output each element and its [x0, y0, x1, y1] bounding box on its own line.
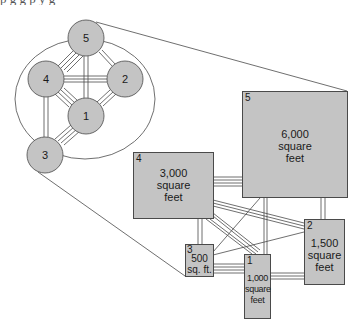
space-2-area-unit: square — [305, 249, 344, 261]
space-5-area: 6,000 square feet — [243, 128, 347, 164]
space-5-area-unit: square — [243, 140, 347, 152]
space-2-area-value: 1,500 — [305, 237, 344, 249]
space-1-block: 1 1,000 square feet — [244, 254, 271, 319]
bubble-2-label: 2 — [122, 73, 128, 85]
space-2-area: 1,500 square feet — [305, 237, 344, 273]
bubble-3-label: 3 — [42, 149, 48, 161]
space-3-area-unit: sq. ft. — [186, 264, 213, 275]
space-4-area-unit2: feet — [134, 191, 213, 203]
space-5-block: 5 6,000 square feet — [242, 91, 348, 198]
space-4-area-value: 3,000 — [134, 167, 213, 179]
space-4-area-unit: square — [134, 179, 213, 191]
space-4-area: 3,000 square feet — [134, 167, 213, 203]
space-1-area: 1,000 square feet — [245, 273, 270, 306]
space-5-area-value: 6,000 — [243, 128, 347, 140]
bubble-1-label: 1 — [83, 110, 89, 122]
space-1-area-unit: square — [245, 284, 270, 295]
space-4-block: 4 3,000 square feet — [133, 152, 214, 219]
space-1-area-unit2: feet — [245, 295, 270, 306]
space-3-area: 500 sq. ft. — [186, 253, 213, 275]
space-3-block: 3 500 sq. ft. — [185, 244, 214, 277]
bubble-4-label: 4 — [43, 73, 49, 85]
space-1-number: 1 — [247, 255, 253, 266]
space-5-area-unit2: feet — [243, 152, 347, 164]
space-3-area-value: 500 — [186, 253, 213, 264]
space-5-number: 5 — [245, 92, 251, 103]
space-4-number: 4 — [136, 153, 142, 164]
space-2-area-unit2: feet — [305, 261, 344, 273]
space-2-number: 2 — [307, 220, 313, 231]
diagram-canvas: p g g p y g — [0, 0, 358, 332]
bubble-5-label: 5 — [83, 32, 89, 44]
space-2-block: 2 1,500 square feet — [304, 219, 345, 285]
space-1-area-value: 1,000 — [245, 273, 270, 284]
